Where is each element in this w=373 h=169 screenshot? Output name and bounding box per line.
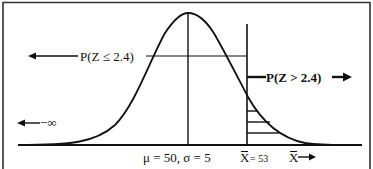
neg-infinity-label: −∞	[40, 115, 57, 130]
xbar-axis-label: X	[289, 150, 316, 165]
left-prob-label: P(Z ≤ 2.4)	[80, 49, 134, 64]
svg-text:X: X	[240, 150, 250, 165]
xbar-value-label: X = 53	[240, 150, 268, 165]
left-arrow-icon	[28, 53, 78, 60]
params-label: μ = 50, σ = 5	[143, 150, 211, 165]
neg-infinity-arrow-icon	[17, 120, 40, 127]
xbar-axis-arrow-icon	[309, 154, 316, 161]
svg-text:= 53: = 53	[250, 153, 268, 164]
right-arrow-icon	[332, 73, 352, 82]
normal-distribution-diagram: P(Z ≤ 2.4) P(Z > 2.4) −∞ μ = 50, σ = 5 X…	[0, 0, 373, 169]
svg-text:X: X	[289, 150, 299, 165]
right-prob-label: P(Z > 2.4)	[266, 70, 321, 85]
